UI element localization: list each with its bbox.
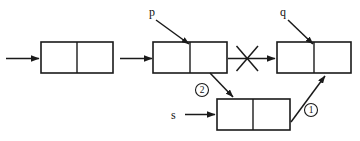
arrow-p-to-s xyxy=(210,73,233,97)
label-p: p xyxy=(149,5,155,19)
marker-1-text: 1 xyxy=(309,105,314,115)
label-q: q xyxy=(280,5,286,19)
arrow-p-to-q xyxy=(228,46,275,71)
pointer-q-arrow xyxy=(288,20,313,44)
node-head[interactable] xyxy=(41,42,113,73)
node-q[interactable] xyxy=(277,42,351,73)
marker-2: 2 xyxy=(196,84,209,97)
marker-1: 1 xyxy=(305,104,318,117)
node-p[interactable] xyxy=(153,42,227,73)
pointer-p-arrow xyxy=(156,20,189,44)
pointer-diagram-canvas: p q 2 xyxy=(0,0,360,141)
label-s: s xyxy=(171,108,176,122)
node-s[interactable] xyxy=(217,99,290,130)
diagram-svg: p q 2 xyxy=(0,0,360,141)
marker-2-text: 2 xyxy=(200,85,205,95)
